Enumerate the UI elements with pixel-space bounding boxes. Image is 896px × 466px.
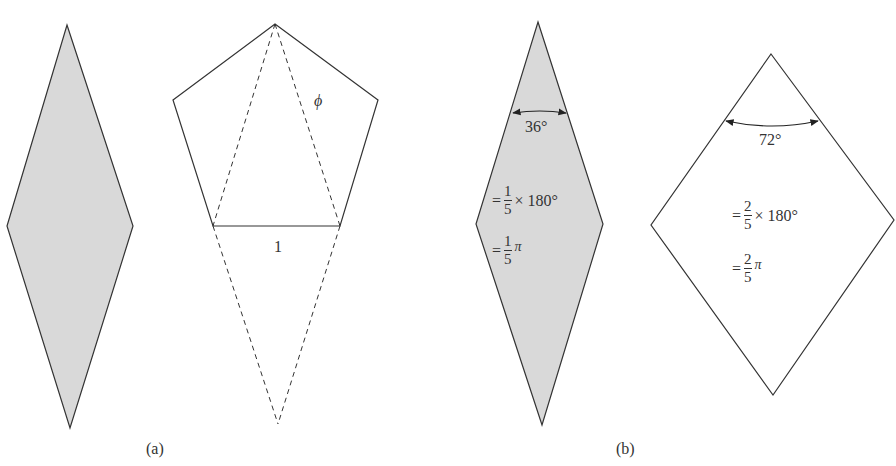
shaded-thin-rhombus-a <box>7 25 133 428</box>
figure-drawing <box>0 0 896 466</box>
equals-sign: = <box>732 260 741 278</box>
fraction: 25 <box>744 252 752 285</box>
pentagon-diagonal-left <box>213 24 275 226</box>
caption-b: (b) <box>616 440 635 458</box>
caption-a: (a) <box>146 440 164 458</box>
angle-36-label: 36° <box>525 118 547 136</box>
equals-sign: = <box>732 207 741 225</box>
fraction: 15 <box>504 234 512 267</box>
thin-eq-radians: = 15 π <box>492 234 522 267</box>
dashed-extension-left <box>213 226 278 424</box>
angle-72-label: 72° <box>759 131 781 149</box>
times-180: × 180° <box>755 207 798 225</box>
times-180: × 180° <box>515 192 558 210</box>
pentagon <box>173 24 378 226</box>
equals-sign: = <box>492 192 501 210</box>
pentagon-diagonal-right <box>275 24 340 226</box>
angle-arc-72 <box>726 121 818 126</box>
thick-eq-degrees: = 25 × 180° <box>732 199 798 232</box>
dashed-extension-right <box>278 226 340 424</box>
equals-sign: = <box>492 242 501 260</box>
side-length-label: 1 <box>274 238 282 256</box>
fraction: 25 <box>744 199 752 232</box>
penrose-rhombus-figure: ϕ 1 (a) 36° = 15 × 180° = 15 π 72° = 25 … <box>0 0 896 466</box>
phi-label: ϕ <box>314 92 322 110</box>
thin-eq-degrees: = 15 × 180° <box>492 184 558 217</box>
fraction: 15 <box>504 184 512 217</box>
pi-symbol: π <box>515 239 522 255</box>
thick-eq-radians: = 25 π <box>732 252 762 285</box>
shaded-thin-rhombus-b <box>476 22 603 425</box>
pi-symbol: π <box>755 257 762 273</box>
